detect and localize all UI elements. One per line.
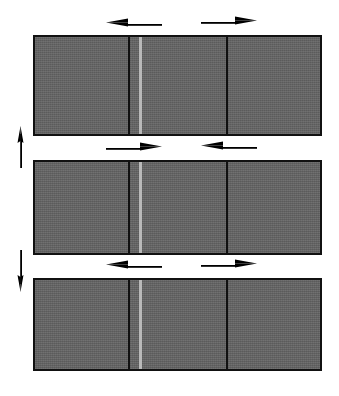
- vertical-arrow-up-icon: [14, 126, 30, 168]
- row-3-arrow-left-icon: [106, 260, 162, 274]
- vertical-arrow-down-icon: [14, 250, 30, 292]
- row-3-band: [33, 278, 322, 371]
- row-2-arrow-right-icon: [201, 141, 257, 155]
- row-1-band: [33, 35, 322, 136]
- row-2-arrow-left-icon: [106, 142, 162, 156]
- row-1-arrow-right-icon: [201, 16, 257, 30]
- figure-root: [0, 0, 339, 396]
- row-2-band: [33, 160, 322, 255]
- row-1-divider-light-left: [139, 37, 142, 134]
- row-1-divider-dark-right: [226, 37, 228, 134]
- row-2-divider-dark-right: [226, 162, 228, 253]
- row-1-arrow-left-icon: [106, 18, 162, 32]
- row-3-arrow-right-icon: [201, 259, 257, 273]
- row-2-divider-light-left: [139, 162, 142, 253]
- row-2-divider-dark-left: [128, 162, 130, 253]
- row-1-divider-dark-left: [128, 37, 130, 134]
- row-3-divider-dark-right: [226, 280, 228, 369]
- row-3-divider-dark-left: [128, 280, 130, 369]
- row-3-divider-light-left: [139, 280, 142, 369]
